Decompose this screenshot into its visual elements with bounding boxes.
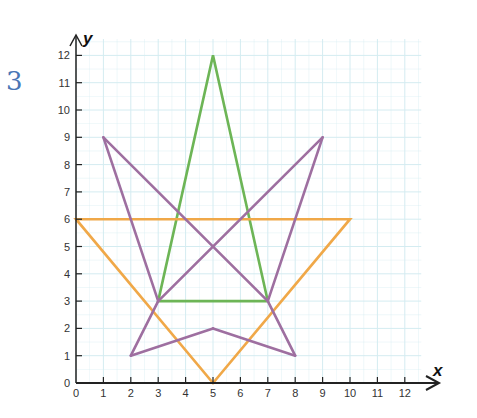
x-tick-label: 4 — [183, 387, 189, 399]
x-tick-label: 6 — [237, 387, 243, 399]
y-tick-label: 7 — [64, 186, 70, 198]
y-tick-label: 4 — [64, 268, 70, 280]
y-tick-label: 0 — [64, 377, 70, 389]
y-tick-label: 6 — [64, 213, 70, 225]
x-axis-label: x — [432, 361, 444, 380]
y-tick-label: 9 — [64, 131, 70, 143]
x-tick-label: 11 — [372, 387, 383, 399]
y-tick-label: 1 — [64, 350, 70, 362]
x-tick-label: 5 — [210, 387, 216, 399]
y-tick-label: 2 — [64, 322, 70, 334]
y-axis-label: y — [82, 29, 94, 48]
y-tick-label: 10 — [58, 104, 70, 116]
x-tick-label: 1 — [100, 387, 106, 399]
x-tick-label: 8 — [292, 387, 298, 399]
y-tick-label: 3 — [64, 295, 70, 307]
coordinate-plane-chart: 01234567891011120123456789101112 y x — [0, 0, 477, 418]
x-tick-label: 9 — [320, 387, 326, 399]
x-tick-label: 7 — [265, 387, 271, 399]
x-tick-label: 2 — [128, 387, 134, 399]
x-tick-label: 12 — [399, 387, 411, 399]
y-tick-label: 5 — [64, 241, 70, 253]
axes — [70, 35, 439, 390]
y-tick-label: 12 — [58, 49, 70, 61]
x-tick-label: 0 — [73, 387, 79, 399]
y-tick-label: 8 — [64, 159, 70, 171]
x-tick-label: 10 — [344, 387, 356, 399]
y-tick-label: 11 — [59, 77, 70, 89]
x-tick-label: 3 — [155, 387, 161, 399]
